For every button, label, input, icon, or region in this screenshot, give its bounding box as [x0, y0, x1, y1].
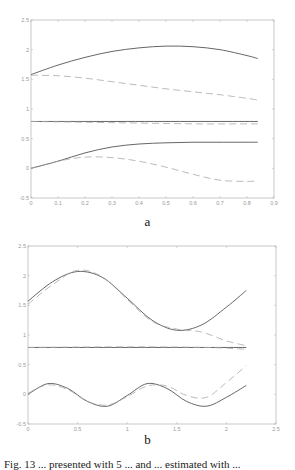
- y-tick-label: 2.5: [18, 243, 26, 249]
- y-tick-label: 0.5: [18, 362, 26, 368]
- y-tick-label: 1.5: [18, 302, 26, 308]
- figure-caption: Fig. 13 ... presented with 5 ... and ...…: [4, 458, 240, 470]
- chart-b: 00.511.522.5-0.500.511.522.5: [0, 0, 295, 440]
- plot-frame: [28, 246, 276, 424]
- y-tick-label: 2: [23, 273, 26, 279]
- y-tick-label: 1: [23, 332, 26, 338]
- y-tick-label: -0.5: [17, 421, 26, 427]
- y-tick-label: 0: [23, 391, 26, 397]
- series-upper-solid: [28, 271, 246, 330]
- panel-label-b: b: [0, 432, 295, 448]
